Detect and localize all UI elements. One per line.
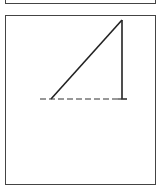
triangle-diagram [0,0,158,190]
hypotenuse-line [51,20,122,99]
